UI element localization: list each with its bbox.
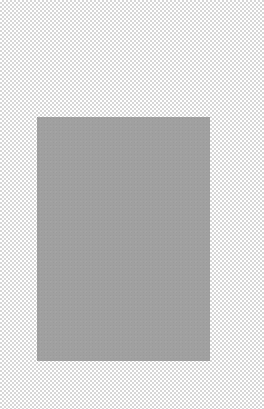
transparent-canvas-background (0, 0, 264, 409)
gray-rectangle (37, 117, 210, 361)
